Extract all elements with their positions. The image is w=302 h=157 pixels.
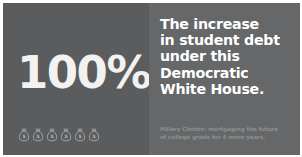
headline-line: under this (160, 48, 295, 64)
svg-text:$: $ (36, 133, 40, 139)
headline-line: The increase (160, 16, 295, 32)
svg-text:$: $ (22, 133, 26, 139)
statistic-value: 100% (17, 50, 150, 95)
svg-text:$: $ (50, 133, 54, 139)
money-bag-icon: $ (18, 128, 30, 142)
caption-line: of college grads for 4 more years. (160, 134, 296, 141)
caption-line: Hillary Clinton: mortgaging the future (160, 126, 296, 133)
money-bag-icon: $ (46, 128, 58, 142)
money-bag-icon-row: $ $ $ (18, 128, 100, 142)
money-bag-icon: $ (74, 128, 86, 142)
money-bag-icon: $ (88, 128, 100, 142)
caption: Hillary Clinton: mortgaging the future o… (160, 126, 296, 141)
money-bag-icon: $ (60, 128, 72, 142)
svg-text:$: $ (78, 133, 82, 139)
svg-text:$: $ (92, 133, 96, 139)
political-ad-card: 100% $ $ $ (3, 3, 300, 155)
headline-line: White House. (160, 81, 295, 97)
money-bag-icon: $ (32, 128, 44, 142)
svg-text:$: $ (64, 133, 68, 139)
headline-line: Democratic (160, 65, 295, 81)
statistic-panel: 100% $ $ $ (3, 3, 149, 155)
headline-line: in student debt (160, 32, 295, 48)
headline: The increase in student debt under this … (160, 16, 295, 97)
message-panel: The increase in student debt under this … (149, 3, 300, 155)
